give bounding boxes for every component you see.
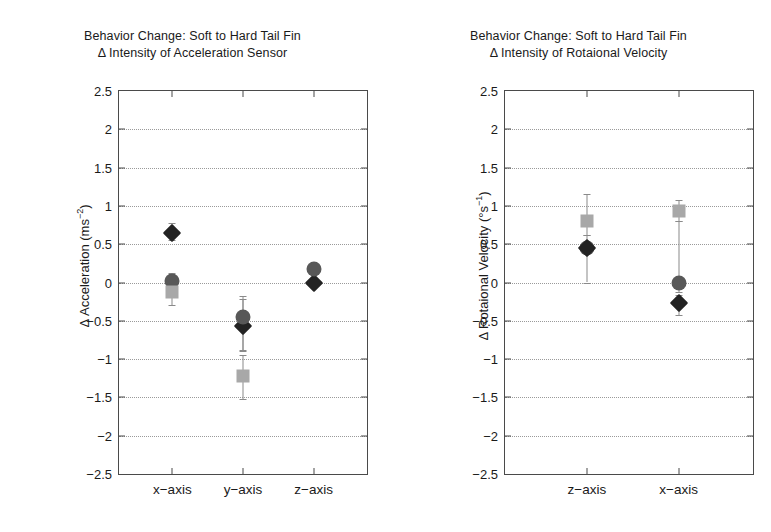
error-bar-cap — [169, 305, 176, 306]
y-axis-tick-mark — [747, 205, 753, 206]
y-axis-tick-label: 1 — [105, 198, 112, 213]
x-axis-tick-label: z−axis — [568, 482, 607, 497]
y-axis-label-left-text: Δ Acceleration (ms — [77, 219, 92, 327]
y-axis-tick-mark — [747, 435, 753, 436]
y-axis-label-right-exponent: −1 — [474, 196, 484, 206]
data-point-circle — [236, 309, 251, 324]
x-axis-tick-mark — [678, 468, 679, 474]
error-bar-cap — [583, 235, 590, 236]
data-point-square — [166, 285, 179, 298]
y-axis-tick-label: −1.5 — [472, 390, 498, 405]
gridline — [505, 321, 753, 322]
y-axis-tick-mark — [747, 167, 753, 168]
data-point-square — [237, 369, 250, 382]
data-point-square — [580, 215, 593, 228]
y-axis-label-left-exponent: −2 — [75, 209, 85, 219]
gridline — [119, 206, 367, 207]
panel-title-left-line2: Δ Intensity of Acceleration Sensor — [0, 45, 385, 62]
y-axis-tick-label: −0.5 — [472, 313, 498, 328]
y-axis-tick-label: −1 — [97, 352, 112, 367]
x-axis-tick-label: x−axis — [659, 482, 698, 497]
x-axis-tick-mark — [678, 91, 679, 97]
y-axis-tick-label: 2.5 — [94, 84, 112, 99]
y-axis-tick-mark — [361, 129, 367, 130]
gridline — [505, 206, 753, 207]
gridline — [119, 168, 367, 169]
y-axis-tick-label: 0 — [105, 275, 112, 290]
y-axis-tick-mark — [361, 244, 367, 245]
gridline — [505, 244, 753, 245]
y-axis-tick-mark — [361, 435, 367, 436]
data-point-circle — [306, 261, 321, 276]
y-axis-tick-mark — [119, 282, 125, 283]
data-point-diamond — [163, 224, 181, 242]
y-axis-tick-mark — [505, 205, 511, 206]
y-axis-tick-mark — [361, 282, 367, 283]
y-axis-tick-label: 2 — [105, 122, 112, 137]
x-axis-tick-mark — [313, 468, 314, 474]
x-axis-tick-label: z−axis — [294, 482, 333, 497]
y-axis-label-left: Δ Acceleration (ms−2) — [75, 205, 91, 328]
panel-title-left: Behavior Change: Soft to Hard Tail Fin Δ… — [0, 28, 385, 62]
y-axis-tick-mark — [505, 320, 511, 321]
y-axis-tick-mark — [505, 359, 511, 360]
error-bar-cap — [240, 351, 247, 352]
y-axis-tick-label: 0 — [491, 275, 498, 290]
gridline — [505, 359, 753, 360]
y-axis-tick-label: 1.5 — [94, 160, 112, 175]
error-bar-cap — [583, 194, 590, 195]
chart-panel-acceleration: Behavior Change: Soft to Hard Tail Fin Δ… — [0, 0, 385, 532]
y-axis-tick-mark — [747, 129, 753, 130]
y-axis-tick-mark — [747, 282, 753, 283]
error-bar-cap — [675, 200, 682, 201]
error-bar-cap — [240, 355, 247, 356]
y-axis-tick-mark — [119, 167, 125, 168]
gridline — [119, 283, 367, 284]
y-axis-tick-mark — [119, 129, 125, 130]
x-axis-tick-mark — [172, 91, 173, 97]
y-axis-tick-label: 0.5 — [480, 237, 498, 252]
panel-title-right: Behavior Change: Soft to Hard Tail Fin Δ… — [386, 28, 771, 62]
data-point-diamond — [669, 294, 687, 312]
y-axis-tick-mark — [747, 244, 753, 245]
y-axis-tick-mark — [747, 397, 753, 398]
y-axis-tick-mark — [119, 205, 125, 206]
y-axis-tick-mark — [505, 282, 511, 283]
y-axis-tick-label: −2 — [483, 428, 498, 443]
gridline — [119, 244, 367, 245]
y-axis-tick-mark — [361, 205, 367, 206]
gridline — [505, 436, 753, 437]
y-axis-tick-mark — [119, 359, 125, 360]
y-axis-tick-mark — [505, 397, 511, 398]
y-axis-tick-mark — [361, 397, 367, 398]
y-axis-tick-mark — [119, 435, 125, 436]
figure-canvas: Behavior Change: Soft to Hard Tail Fin Δ… — [0, 0, 771, 532]
y-axis-tick-mark — [505, 244, 511, 245]
y-axis-tick-label: −2.5 — [472, 467, 498, 482]
y-axis-tick-label: 1 — [491, 198, 498, 213]
x-axis-tick-mark — [243, 468, 244, 474]
panel-title-left-line1: Behavior Change: Soft to Hard Tail Fin — [0, 28, 385, 45]
panel-title-right-line2: Δ Intensity of Rotaional Velocity — [386, 45, 771, 62]
error-bar-cap — [675, 315, 682, 316]
data-point-square — [672, 205, 685, 218]
gridline — [119, 436, 367, 437]
panel-title-right-line1: Behavior Change: Soft to Hard Tail Fin — [386, 28, 771, 45]
y-axis-tick-label: −1.5 — [86, 390, 112, 405]
y-axis-tick-mark — [505, 435, 511, 436]
error-bar-cap — [240, 350, 247, 351]
gridline — [505, 168, 753, 169]
x-axis-tick-mark — [586, 468, 587, 474]
y-axis-tick-label: −2 — [97, 428, 112, 443]
y-axis-tick-label: 0.5 — [94, 237, 112, 252]
gridline — [119, 129, 367, 130]
x-axis-tick-label: y−axis — [224, 482, 263, 497]
y-axis-tick-mark — [505, 129, 511, 130]
y-axis-label-right-close: ) — [476, 191, 491, 195]
y-axis-tick-label: −0.5 — [86, 313, 112, 328]
error-bar-cap — [583, 283, 590, 284]
plot-area-right: 2.521.510.50−0.5−1−1.5−2−2.5z−axisx−axis — [504, 90, 754, 475]
x-axis-tick-mark — [243, 91, 244, 97]
x-axis-tick-mark — [586, 91, 587, 97]
error-bar-cap — [675, 221, 682, 222]
